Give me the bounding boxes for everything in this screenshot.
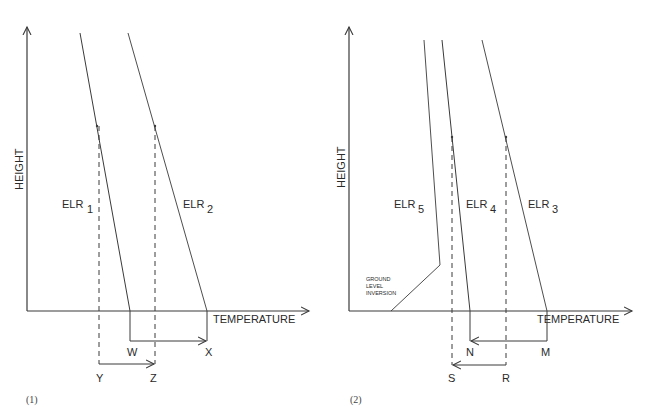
svg-text:ELR: ELR [466,198,487,210]
panel-2: HEIGHT TEMPERATURE ELR 5 ELR 4 ELR 3 [335,27,632,406]
svg-text:LEVEL: LEVEL [366,283,383,289]
svg-text:INVERSION: INVERSION [366,290,396,296]
svg-text:ELR: ELR [183,198,204,210]
w-x-bracket [130,311,206,341]
elr-3-line [482,40,547,311]
point-m: M [541,346,550,358]
svg-text:4: 4 [490,203,496,215]
elr-3-label: ELR 3 [528,198,558,215]
elr-2-label: ELR 2 [183,198,213,215]
ground-level-inversion-note: GROUND LEVEL INVERSION [366,276,396,296]
point-w: W [127,346,138,358]
panel-caption: (1) [26,394,38,406]
svg-text:1: 1 [87,203,93,215]
x-axis-label: TEMPERATURE [537,313,619,325]
y-axis-label: HEIGHT [13,148,25,190]
svg-text:5: 5 [418,203,424,215]
point-x: X [205,346,213,358]
svg-text:2: 2 [207,203,213,215]
elr-5-line [391,40,440,311]
point-z: Z [150,372,157,384]
elr-4-line [442,40,470,311]
elr-1-label: ELR 1 [62,198,93,215]
x-axis-label: TEMPERATURE [213,313,295,325]
elr-4-label: ELR 4 [466,198,496,215]
panel-caption: (2) [350,394,362,406]
panel-1: HEIGHT TEMPERATURE ELR 1 ELR 2 W X Y Z (… [13,27,309,406]
svg-text:GROUND: GROUND [366,276,390,282]
point-y: Y [96,372,104,384]
elr-5-label: ELR 5 [394,198,424,215]
svg-text:3: 3 [552,203,558,215]
elr-2-line [128,33,207,311]
point-n: N [466,346,474,358]
elr-1-line [80,33,130,311]
y-axis-label: HEIGHT [335,146,347,188]
svg-text:ELR: ELR [528,198,549,210]
svg-text:ELR: ELR [394,198,415,210]
svg-text:ELR: ELR [62,198,83,210]
point-r: R [502,372,510,384]
m-n-bracket [471,311,547,341]
elr-diagram: HEIGHT TEMPERATURE ELR 1 ELR 2 W X Y Z (… [0,0,648,411]
point-s: S [448,372,455,384]
